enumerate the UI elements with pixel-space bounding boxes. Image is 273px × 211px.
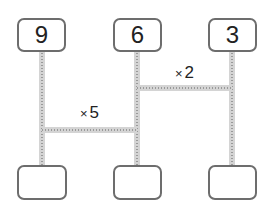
multiply-symbol: × bbox=[80, 106, 88, 121]
top-box-2: 6 bbox=[113, 18, 162, 52]
vertical-line-3 bbox=[229, 50, 235, 167]
bottom-box-3[interactable] bbox=[208, 165, 257, 200]
rung-upper-label: ×2 bbox=[175, 63, 194, 83]
top-box-3: 3 bbox=[208, 18, 257, 52]
rung-upper bbox=[137, 85, 232, 91]
vertical-line-2 bbox=[134, 50, 140, 167]
multiply-symbol: × bbox=[175, 66, 183, 81]
operand: 5 bbox=[90, 103, 99, 122]
bottom-box-2[interactable] bbox=[113, 165, 162, 200]
vertical-line-1 bbox=[39, 50, 45, 167]
bottom-box-1[interactable] bbox=[17, 165, 67, 200]
operand: 2 bbox=[185, 63, 194, 82]
rung-lower-label: ×5 bbox=[80, 103, 99, 123]
top-box-1: 9 bbox=[17, 18, 66, 52]
rung-lower bbox=[42, 127, 137, 133]
